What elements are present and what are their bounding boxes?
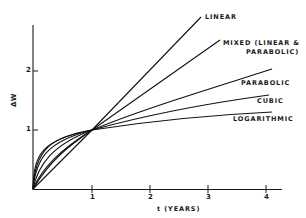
- x-tick-label-3: 3: [206, 194, 211, 201]
- y-axis-label: ΔW: [10, 93, 18, 107]
- label-logarithmic: LOGARITHMIC: [233, 116, 294, 123]
- plot-area: [0, 0, 306, 218]
- label-cubic: CUBIC: [257, 98, 284, 105]
- x-tick-label-4: 4: [264, 194, 269, 201]
- series-linear: [33, 17, 201, 189]
- y-tick-label-2: 2: [26, 67, 31, 74]
- series-logarithmic: [33, 112, 272, 189]
- label-linear: LINEAR: [205, 14, 237, 21]
- x-tick-label-2: 2: [148, 194, 153, 201]
- y-tick-label-1: 1: [26, 126, 31, 133]
- label-parabolic: PARABOLIC: [241, 80, 290, 87]
- x-axis-label: t (YEARS): [157, 206, 200, 213]
- label-mixed-line2: PARABOLIC): [246, 49, 299, 56]
- x-tick-label-1: 1: [90, 194, 95, 201]
- label-mixed-line1: MIXED (LINEAR &: [223, 40, 300, 47]
- series-cubic: [33, 95, 269, 189]
- series-mixed: [33, 40, 220, 189]
